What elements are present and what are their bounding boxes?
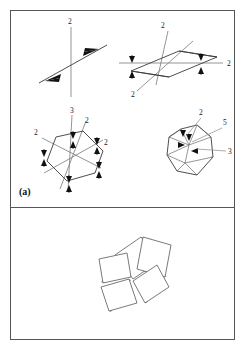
- axis-label-5-icosahedron: 5: [223, 118, 227, 127]
- panel-b: (b): [11, 208, 234, 339]
- arrow-pair-left: [129, 55, 135, 79]
- axis-label-2-hex-c: 2: [104, 138, 108, 147]
- diagram-parallelogram-two-fold-axes: 2 2 2: [119, 21, 231, 99]
- inclined-two-fold-axis-line: [137, 41, 193, 91]
- axis-label-3-icosahedron: 3: [228, 147, 232, 156]
- axis-label-2-hex-a: 2: [85, 116, 89, 125]
- in-plane-two-fold-axis-a: [42, 138, 101, 168]
- icosahedron-internal-edges: [167, 125, 213, 175]
- axis-label-2-inclined: 2: [131, 90, 135, 99]
- axis-label-2-steep: 2: [161, 21, 165, 30]
- diagram-two-fold-axis-pair: 2: [39, 17, 107, 97]
- axis-label-2-horizontal: 2: [227, 59, 231, 68]
- parallelogram-left-edge: [131, 71, 169, 77]
- axis-label-3-vertical: 3: [70, 106, 74, 115]
- diagram-pinwheel-rectangle-arrangement: [99, 237, 171, 312]
- arrowhead-right: [83, 48, 99, 56]
- leader-three-fold-axis: [197, 149, 226, 151]
- panel-a-drawing: 2: [11, 11, 234, 208]
- pinwheel-tile: [99, 253, 131, 283]
- figure-frame: 2: [10, 10, 235, 340]
- diagram-hexagonal-three-fold-axis: 3 2 2 2: [34, 106, 108, 193]
- panel-label-a: (a): [19, 186, 31, 197]
- inclined-two-fold-axis-line: [39, 45, 107, 83]
- axis-label-2-icosahedron: 2: [199, 108, 203, 117]
- diagram-icosahedron-axes: 2 5 3: [167, 108, 232, 175]
- axis-label-2-hex-b: 2: [34, 128, 38, 137]
- leader-five-fold-axis: [192, 128, 222, 142]
- axis-label-2-vertical: 2: [68, 17, 72, 26]
- pinwheel-tile: [101, 279, 137, 311]
- panel-a: 2: [11, 11, 234, 208]
- panel-b-drawing: [11, 208, 234, 339]
